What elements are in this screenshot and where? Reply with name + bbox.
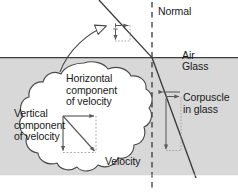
label-corpuscle-in-glass: Corpuscle in glass <box>183 92 229 115</box>
air-velocity-components <box>113 23 130 41</box>
label-vertical-component: Vertical component of velocity <box>14 108 65 143</box>
label-horizontal-component: Horizontal component of velocity <box>66 73 117 108</box>
label-glass: Glass <box>182 61 208 73</box>
label-velocity: Velocity <box>105 156 140 168</box>
incident-ray <box>99 0 152 58</box>
refraction-diagram: Normal Air Glass Corpuscle in glass Hori… <box>0 0 238 192</box>
label-normal: Normal <box>158 6 191 18</box>
